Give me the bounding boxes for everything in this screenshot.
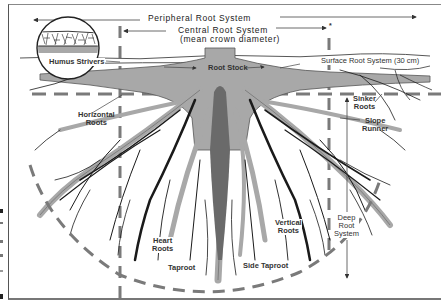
sinker-roots-label: Sinker Roots bbox=[353, 95, 376, 111]
sinker-roots-line2: Roots bbox=[353, 103, 376, 111]
taproot-label: Taproot bbox=[168, 264, 195, 272]
peripheral-root-system-label: Peripheral Root System bbox=[148, 14, 251, 23]
surface-root-system-label: Surface Root System (30 cm) bbox=[320, 57, 420, 65]
root-stock-label: Root Stock bbox=[208, 64, 248, 72]
vertical-roots-line2: Roots bbox=[275, 227, 302, 235]
root-system-illustration bbox=[0, 0, 441, 306]
side-taproot-label: Side Taproot bbox=[243, 262, 288, 270]
horizontal-roots-label: Horizontal Roots bbox=[78, 111, 115, 127]
crown-diameter-label: (mean crown diameter) bbox=[180, 35, 280, 44]
slope-runner-line2: Runner bbox=[362, 125, 388, 133]
humus-inset bbox=[37, 17, 99, 79]
heart-roots-line2: Roots bbox=[152, 245, 173, 253]
deep-root-line3: System bbox=[334, 230, 359, 238]
horizontal-roots-line2: Roots bbox=[78, 119, 115, 127]
deep-root-system-label: Deep Root System bbox=[334, 214, 359, 238]
heart-roots-label: Heart Roots bbox=[152, 237, 173, 253]
humus-strivers-label: Humus Strivers bbox=[48, 58, 105, 66]
surface-pointer bbox=[280, 64, 300, 68]
slope-runner-label: Slope Runner bbox=[362, 117, 388, 133]
taproot-core bbox=[210, 86, 230, 260]
asterisk-mark: * bbox=[329, 22, 332, 30]
vertical-roots-label: Vertical Roots bbox=[275, 219, 302, 235]
